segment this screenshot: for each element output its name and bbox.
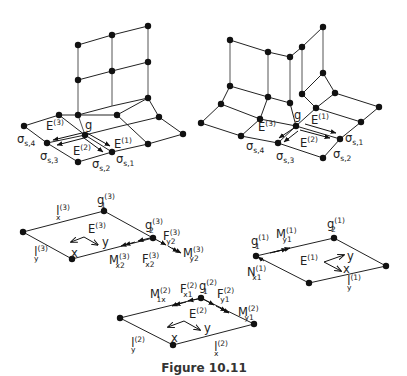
svg-text:E(2): E(2)	[73, 143, 91, 158]
wall-mesh	[230, 27, 335, 103]
svg-text:E(3): E(3)	[258, 119, 276, 134]
svg-text:σs,1: σs,1	[116, 152, 135, 168]
mesh-nodes	[21, 23, 186, 165]
labels: g E(1) E(3) E(2) σs,1 σs,2 σs,3 σs,4	[246, 108, 364, 165]
svg-text:σs,2: σs,2	[333, 147, 352, 163]
svg-text:l(3)y: l(3)y	[34, 244, 48, 263]
svg-text:M(2)1x: M(2)1x	[150, 286, 171, 304]
svg-text:g(1)2: g(1)2	[327, 216, 345, 234]
svg-text:E(1): E(1)	[311, 112, 329, 127]
svg-text:x: x	[71, 246, 78, 260]
svg-text:l(1)y: l(1)y	[347, 273, 361, 292]
svg-text:g: g	[294, 108, 301, 122]
svg-text:y: y	[102, 235, 109, 249]
svg-text:E(3): E(3)	[88, 221, 106, 236]
element-1: E(1) y x g(1)1 g(1)2 M(1)y1 N(1)x1 l(1)y	[247, 216, 389, 292]
svg-text:l(2)y: l(2)y	[131, 335, 145, 354]
figure-canvas: g E(3) E(1) E(2) σs,4 σs,3 σs,2 σs,1	[0, 0, 407, 376]
svg-text:F(2)y1: F(2)y1	[217, 286, 234, 304]
element-3: E(3) y x l(3)x l(3)y g(3)1 g(3)2 F(3)y2 …	[20, 192, 204, 270]
svg-text:σs,3: σs,3	[40, 149, 59, 165]
svg-text:y: y	[204, 321, 211, 335]
svg-text:E(1): E(1)	[300, 253, 318, 268]
svg-text:x: x	[171, 331, 178, 345]
svg-text:M(1)y1: M(1)y1	[276, 226, 297, 244]
svg-text:M(3)x2: M(3)x2	[109, 252, 130, 270]
svg-text:F(2)x1: F(2)x1	[180, 281, 197, 299]
figure-caption: Figure 10.11	[161, 361, 247, 375]
svg-text:E(3): E(3)	[46, 118, 64, 133]
svg-text:g(1)1: g(1)1	[251, 233, 269, 251]
svg-text:M(3)y2: M(3)y2	[183, 245, 204, 263]
svg-text:E(1): E(1)	[114, 136, 132, 151]
svg-text:σs,1: σs,1	[345, 131, 364, 147]
svg-text:l(3)x: l(3)x	[56, 203, 70, 222]
panel-top-left: g E(3) E(1) E(2) σs,4 σs,3 σs,2 σs,1	[17, 23, 186, 173]
node-label-g: g	[85, 118, 92, 132]
svg-text:σs,3: σs,3	[276, 149, 295, 165]
labels: g E(3) E(1) E(2) σs,4 σs,3 σs,2 σs,1	[17, 118, 135, 173]
labels: E(3) y x l(3)x l(3)y g(3)1 g(3)2 F(3)y2 …	[34, 192, 204, 270]
element-2: E(2) y x M(2)1x F(2)x1 g(2)1 F(2)y1 M(2)…	[117, 278, 259, 358]
svg-text:g(2)1: g(2)1	[199, 278, 217, 296]
svg-text:σs,4: σs,4	[17, 132, 36, 148]
svg-text:g(3)1: g(3)1	[97, 192, 115, 210]
svg-text:y: y	[347, 249, 354, 263]
svg-text:M(2)y1: M(2)y1	[238, 304, 259, 322]
labels: E(2) y x M(2)1x F(2)x1 g(2)1 F(2)y1 M(2)…	[131, 278, 259, 358]
svg-text:E(2): E(2)	[189, 306, 207, 321]
svg-text:g(3)2: g(3)2	[145, 217, 163, 235]
svg-text:F(3)x2: F(3)x2	[142, 251, 159, 269]
svg-text:E(2): E(2)	[300, 135, 318, 150]
svg-text:σs,2: σs,2	[92, 157, 111, 173]
svg-text:l(2)x: l(2)x	[214, 339, 228, 358]
svg-text:σs,4: σs,4	[246, 139, 265, 155]
panel-top-right: g E(1) E(3) E(2) σs,1 σs,2 σs,3 σs,4	[198, 24, 382, 165]
svg-text:F(3)y2: F(3)y2	[163, 228, 180, 246]
svg-text:N(1)x1: N(1)x1	[247, 264, 266, 282]
